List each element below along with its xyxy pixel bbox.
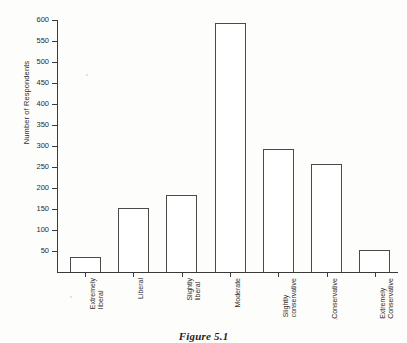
y-tick-label: 550 <box>36 36 49 45</box>
figure-caption: Figure 5.1 <box>0 330 407 342</box>
scan-speck <box>86 74 88 76</box>
x-tick <box>182 272 183 277</box>
y-tick: 100 <box>52 230 57 231</box>
x-tick <box>327 272 328 277</box>
y-tick-label: 200 <box>36 183 49 192</box>
x-category-label: ExtremelyConservative <box>379 237 395 278</box>
y-tick: 600 <box>52 20 57 21</box>
y-tick: 250 <box>52 167 57 168</box>
y-tick: 200 <box>52 188 57 189</box>
y-tick: 550 <box>52 41 57 42</box>
x-tick <box>375 272 376 277</box>
x-tick <box>278 272 279 277</box>
scan-speck <box>70 296 72 298</box>
y-tick-label: 450 <box>36 78 49 87</box>
y-axis-line <box>57 20 58 272</box>
y-tick-label: 50 <box>41 246 49 255</box>
figure-5-1: Number of Respondents 501001502002503003… <box>0 0 407 343</box>
y-tick: 50 <box>52 251 57 252</box>
y-axis-title: Number of Respondents <box>22 33 31 173</box>
y-tick: 300 <box>52 146 57 147</box>
x-category-label: Liberal <box>137 257 145 278</box>
x-category-label: Moderate <box>234 248 242 278</box>
y-tick-label: 300 <box>36 141 49 150</box>
y-tick-label: 350 <box>36 120 49 129</box>
bar <box>215 23 246 272</box>
y-tick: 500 <box>52 62 57 63</box>
x-category-label: Conservative <box>331 237 339 278</box>
y-tick-label: 250 <box>36 162 49 171</box>
scanned-page-background: Number of Respondents 501001502002503003… <box>0 0 407 343</box>
x-category-label: Slightlyliberal <box>186 255 202 278</box>
x-tick <box>133 272 134 277</box>
y-tick-label: 150 <box>36 204 49 213</box>
y-tick-label: 600 <box>36 15 49 24</box>
scan-speck <box>336 318 338 320</box>
y-tick: 350 <box>52 125 57 126</box>
x-tick <box>85 272 86 277</box>
y-tick: 150 <box>52 209 57 210</box>
plot-area: 50100150200250300350400450500550600 Extr… <box>57 20 395 272</box>
y-tick: 400 <box>52 104 57 105</box>
y-tick: 450 <box>52 83 57 84</box>
x-category-label: Slightlyconservative <box>282 239 298 278</box>
y-tick-label: 400 <box>36 99 49 108</box>
y-tick-label: 500 <box>36 57 49 66</box>
x-category-label: Extremelyliberal <box>89 247 105 278</box>
x-tick <box>230 272 231 277</box>
y-tick-label: 100 <box>36 225 49 234</box>
x-axis-line <box>57 272 398 273</box>
